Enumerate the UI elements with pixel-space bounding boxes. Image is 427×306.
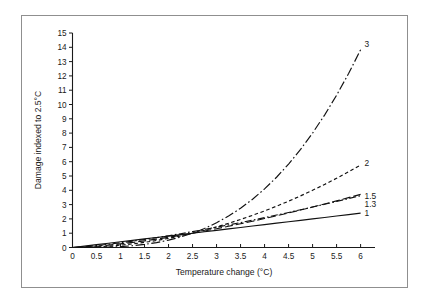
y-axis-title: Damage indexed to 2.5°C [33,91,43,190]
y-tick-label: 0 [62,244,67,253]
x-tick-label: 4 [262,252,267,261]
y-tick-label: 7 [62,143,67,152]
x-tick-label: 6 [358,252,363,261]
x-tick-label: 3.5 [235,252,247,261]
x-tick-label: 0.5 [91,252,103,261]
y-tick-label: 3 [62,201,67,210]
curve-exponent-1.5 [73,194,361,247]
curve-label-1.5: 1.5 [365,191,377,201]
x-axis-title: Temperature change (°C) [176,267,273,277]
x-tick-label: 5.5 [331,252,343,261]
x-tick-label: 3 [214,252,219,261]
curve-series-group [73,50,361,248]
curve-label-2: 2 [365,158,370,168]
y-tick-label: 13 [57,58,67,67]
x-tick-label: 1.5 [139,252,151,261]
y-tick-label: 6 [62,158,67,167]
curve-label-group: 11.31.523 [365,39,377,218]
x-tick-label: 2.5 [187,252,199,261]
curve-exponent-1.3 [73,196,361,248]
y-tick-label: 5 [62,172,67,181]
curve-exponent-1 [73,213,361,247]
x-tick-label: 5 [310,252,315,261]
y-tick-label: 11 [58,86,67,95]
y-axis: 0123456789101112131415 Damage indexed to… [33,29,73,253]
x-axis: 00.511.522.533.544.555.56 Temperature ch… [70,244,375,277]
x-tick-label: 0 [70,252,75,261]
x-axis-ticks: 00.511.522.533.544.555.56 [70,244,363,261]
y-tick-label: 15 [57,29,67,38]
x-tick-label: 1 [118,252,123,261]
y-tick-label: 10 [57,101,67,110]
y-tick-label: 1 [62,229,67,238]
y-tick-label: 4 [62,186,67,195]
y-tick-label: 12 [57,72,67,81]
y-tick-label: 8 [62,129,67,138]
damage-function-chart: 0123456789101112131415 Damage indexed to… [0,0,427,306]
curve-label-3: 3 [365,39,370,49]
y-tick-label: 14 [57,43,67,52]
curve-label-1: 1 [365,208,370,218]
x-tick-label: 4.5 [283,252,295,261]
x-tick-label: 2 [166,252,171,261]
y-tick-label: 2 [62,215,67,224]
y-axis-ticks: 0123456789101112131415 [57,29,72,253]
y-tick-label: 9 [62,115,67,124]
